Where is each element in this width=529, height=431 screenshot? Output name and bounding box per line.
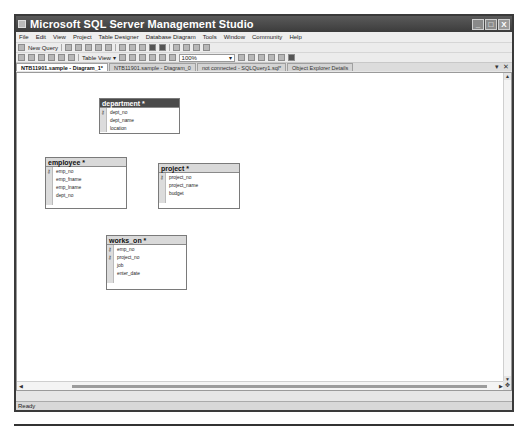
new-query-button[interactable]: New Query — [28, 45, 58, 51]
tab-sql-query[interactable]: not connected - SQLQuery1.sql* — [197, 63, 286, 71]
key-icon: ⚷ — [107, 253, 114, 261]
maximize-button[interactable]: □ — [485, 19, 497, 30]
remove-from-diagram-icon[interactable] — [58, 54, 65, 61]
table-header[interactable]: employee * — [46, 158, 126, 167]
tab-diagram-1[interactable]: NTB11901.sample - Diagram_1* — [16, 63, 108, 71]
menu-window[interactable]: Window — [224, 34, 245, 40]
horizontal-scrollbar[interactable]: ◀ ▶ — [17, 381, 505, 390]
row-selector — [46, 191, 53, 199]
add-related-tables-icon[interactable] — [38, 54, 45, 61]
column-row[interactable]: project_name — [159, 181, 239, 189]
column-row[interactable]: budget — [159, 189, 239, 197]
xmla-query-icon[interactable] — [105, 44, 112, 51]
mdx-query-icon[interactable] — [85, 44, 92, 51]
navigator-icon[interactable]: ✥ — [503, 381, 511, 390]
delete-from-database-icon[interactable] — [48, 54, 55, 61]
key-icon: ⚷ — [100, 108, 107, 116]
column-row[interactable]: ⚷ emp_no — [107, 245, 186, 253]
manage-check-constraints-icon[interactable] — [278, 54, 285, 61]
table-view-dropdown[interactable]: Table View ▾ — [82, 54, 116, 61]
tab-diagram-0[interactable]: NTB11901.sample - Diagram_0 — [109, 63, 196, 71]
column-name: location — [107, 126, 127, 131]
minimize-button[interactable]: _ — [472, 19, 484, 30]
vertical-scrollbar[interactable]: ▲ ▼ — [503, 73, 511, 383]
table-header[interactable]: department * — [100, 99, 179, 108]
manage-xml-indexes-icon[interactable] — [268, 54, 275, 61]
menu-table-designer[interactable]: Table Designer — [99, 34, 139, 40]
menu-community[interactable]: Community — [252, 34, 282, 40]
standard-toolbar: New Query — [16, 42, 512, 52]
scroll-up-icon[interactable]: ▲ — [504, 73, 511, 80]
dmx-query-icon[interactable] — [95, 44, 102, 51]
table-department[interactable]: department * ⚷ dept_no dept_name locatio… — [99, 98, 180, 134]
menu-tools[interactable]: Tools — [203, 34, 217, 40]
manage-fulltext-icon[interactable] — [258, 54, 265, 61]
column-row[interactable]: enter_date — [107, 269, 186, 277]
column-row[interactable]: dept_no — [46, 191, 126, 199]
table-header[interactable]: works_on * — [107, 236, 186, 245]
window-title: Microsoft SQL Server Management Studio — [30, 18, 254, 30]
table-body-padding — [107, 277, 186, 283]
column-row[interactable]: job — [107, 261, 186, 269]
show-relationship-labels-icon[interactable] — [159, 54, 166, 61]
column-row[interactable]: ⚷ project_no — [159, 173, 239, 181]
toolbar-separator — [78, 54, 79, 61]
column-name: emp_lname — [53, 185, 81, 190]
properties-icon[interactable] — [203, 44, 210, 51]
row-selector — [107, 261, 114, 269]
column-row[interactable]: dept_name — [100, 116, 179, 124]
menu-project[interactable]: Project — [73, 34, 92, 40]
table-project[interactable]: project * ⚷ project_no project_name budg… — [158, 163, 240, 209]
generate-script-icon[interactable] — [68, 54, 75, 61]
view-page-breaks-icon[interactable] — [169, 54, 176, 61]
registered-servers-icon[interactable] — [173, 44, 180, 51]
autosize-tables-icon[interactable] — [139, 54, 146, 61]
column-name: job — [114, 263, 123, 268]
new-table-icon[interactable] — [18, 54, 25, 61]
tab-list-dropdown-icon[interactable]: ▾ — [495, 63, 499, 71]
recalculate-page-breaks-icon[interactable] — [238, 54, 245, 61]
database-engine-query-icon[interactable] — [65, 44, 72, 51]
row-selector — [46, 183, 53, 191]
relationships-icon[interactable] — [288, 54, 295, 61]
column-row[interactable]: ⚷ emp_no — [46, 167, 126, 175]
ssms-window: Microsoft SQL Server Management Studio _… — [14, 14, 514, 412]
object-explorer-icon[interactable] — [183, 44, 190, 51]
table-employee[interactable]: employee * ⚷ emp_no emp_fname emp_lname … — [45, 157, 127, 209]
menu-file[interactable]: File — [19, 34, 29, 40]
add-item-icon[interactable] — [139, 44, 146, 51]
open-file-icon[interactable] — [119, 44, 126, 51]
add-table-icon[interactable] — [28, 54, 35, 61]
diagram-canvas[interactable]: department * ⚷ dept_no dept_name locatio… — [16, 72, 512, 391]
menu-edit[interactable]: Edit — [36, 34, 46, 40]
menu-view[interactable]: View — [53, 34, 66, 40]
column-row[interactable]: location — [100, 124, 179, 132]
column-row[interactable]: emp_fname — [46, 175, 126, 183]
zoom-value: 100% — [182, 55, 197, 61]
app-icon — [18, 20, 26, 28]
new-text-annotation-icon[interactable] — [149, 54, 156, 61]
tab-object-explorer-details[interactable]: Object Explorer Details — [287, 63, 353, 71]
close-tab-icon[interactable]: ✕ — [503, 63, 509, 71]
table-works-on[interactable]: works_on * ⚷ emp_no ⚷ project_no job ent… — [106, 235, 187, 290]
column-row[interactable]: emp_lname — [46, 183, 126, 191]
save-all-icon[interactable] — [159, 44, 166, 51]
save-icon[interactable] — [149, 44, 156, 51]
toolbar-separator — [61, 44, 62, 51]
arrange-tables-icon[interactable] — [129, 54, 136, 61]
arrange-selection-icon[interactable] — [119, 54, 126, 61]
table-header[interactable]: project * — [159, 164, 239, 173]
open-project-icon[interactable] — [129, 44, 136, 51]
close-button[interactable]: X — [498, 19, 510, 30]
manage-indexes-icon[interactable] — [248, 54, 255, 61]
scroll-left-icon[interactable]: ◀ — [17, 382, 25, 390]
zoom-combo[interactable]: 100% ▾ — [179, 54, 235, 62]
template-explorer-icon[interactable] — [193, 44, 200, 51]
horizontal-scroll-thumb[interactable] — [72, 385, 487, 388]
menu-database-diagram[interactable]: Database Diagram — [146, 34, 196, 40]
row-selector — [100, 124, 107, 132]
column-row[interactable]: ⚷ dept_no — [100, 108, 179, 116]
column-row[interactable]: ⚷ project_no — [107, 253, 186, 261]
menu-help[interactable]: Help — [289, 34, 301, 40]
analysis-query-icon[interactable] — [75, 44, 82, 51]
